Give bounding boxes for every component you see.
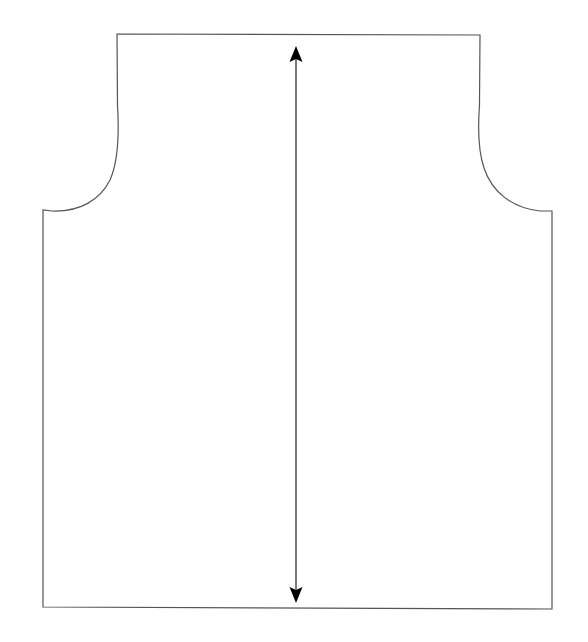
pattern-diagram (0, 0, 588, 642)
diagram-canvas (0, 0, 588, 642)
pattern-piece-outline (43, 34, 552, 609)
